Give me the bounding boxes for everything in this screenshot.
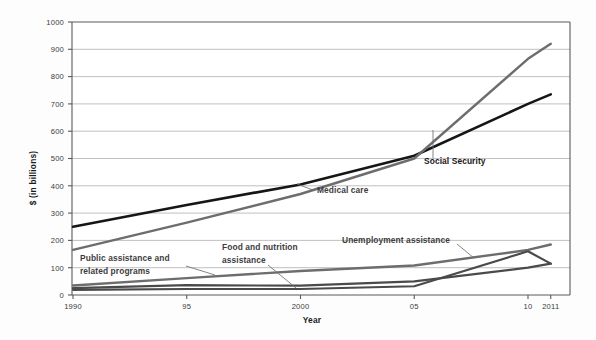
- y-tick-label: 600: [51, 127, 64, 136]
- y-tick-label: 300: [51, 209, 64, 218]
- series-annotation: Unemployment assistance: [342, 235, 450, 245]
- x-tick-label: 05: [410, 302, 419, 311]
- y-tick-label: 900: [51, 45, 64, 54]
- x-tick-label: 2011: [542, 302, 559, 311]
- series-annotation: Social Security: [424, 156, 486, 166]
- series-annotation: Public assistance and: [80, 253, 170, 263]
- x-tick-label: 10: [524, 302, 533, 311]
- x-axis-title: Year: [303, 315, 322, 325]
- y-tick-label: 100: [51, 264, 64, 273]
- y-tick-label: 400: [51, 182, 64, 191]
- x-tick-label: 1990: [64, 302, 82, 311]
- figure-spending-by-category: 01002003004005006007008009001000 1990952…: [0, 0, 596, 340]
- y-tick-label: 200: [51, 236, 64, 245]
- y-tick-label: 700: [51, 100, 64, 109]
- y-tick-label: 500: [51, 154, 64, 163]
- series-annotation: assistance: [222, 255, 266, 265]
- series-annotation: Medical care: [317, 185, 369, 195]
- y-axis-title: $ (in billions): [28, 151, 38, 206]
- y-tick-label: 800: [51, 72, 64, 81]
- x-tick-label: 2000: [292, 302, 310, 311]
- x-tick-label: 95: [182, 302, 191, 311]
- series-annotation: Food and nutrition: [222, 242, 298, 252]
- y-tick-label: 0: [60, 291, 64, 300]
- series-annotation: related programs: [80, 266, 150, 276]
- y-tick-label: 1000: [46, 18, 64, 27]
- chart-svg: 01002003004005006007008009001000 1990952…: [0, 0, 596, 340]
